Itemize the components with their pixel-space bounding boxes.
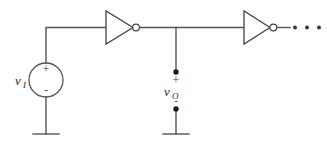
output-plus-sign: + <box>173 73 180 87</box>
ellipsis-dot-2 <box>305 26 309 30</box>
output-label-subscript: O <box>172 91 179 101</box>
output-label-main: v <box>164 84 170 99</box>
inverter-1 <box>106 11 133 44</box>
ellipsis <box>293 26 321 30</box>
circuit-canvas: + - v I + - v O <box>0 0 327 146</box>
ellipsis-dot-1 <box>293 26 297 30</box>
circuit-diagram: + - v I + - v O <box>0 0 327 146</box>
source-plus-sign: + <box>43 62 50 76</box>
output-terminal-bottom-dot <box>173 106 178 111</box>
inverter-2-bubble-icon <box>270 24 277 31</box>
wire-source-to-inverter1 <box>46 28 106 64</box>
inverter-2 <box>244 11 270 44</box>
source-label-main: v <box>15 73 21 88</box>
source-minus-sign: - <box>44 83 48 95</box>
inverter-1-bubble-icon <box>133 24 140 31</box>
source-label-subscript: I <box>22 80 27 90</box>
ellipsis-dot-3 <box>317 26 321 30</box>
